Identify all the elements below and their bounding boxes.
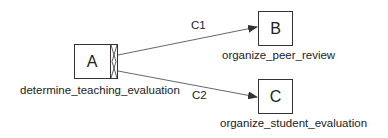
node-b-letter: B bbox=[258, 21, 293, 37]
edge-label-c2: C2 bbox=[192, 90, 207, 102]
node-b-label: organize_peer_review bbox=[222, 50, 335, 62]
node-a-label: determine_teaching_evaluation bbox=[20, 85, 180, 97]
node-a-letter: A bbox=[74, 54, 110, 70]
node-c-label: organize_student_evaluation bbox=[220, 118, 367, 130]
edge-label-c1: C1 bbox=[191, 20, 206, 32]
node-c-letter: C bbox=[258, 89, 293, 105]
